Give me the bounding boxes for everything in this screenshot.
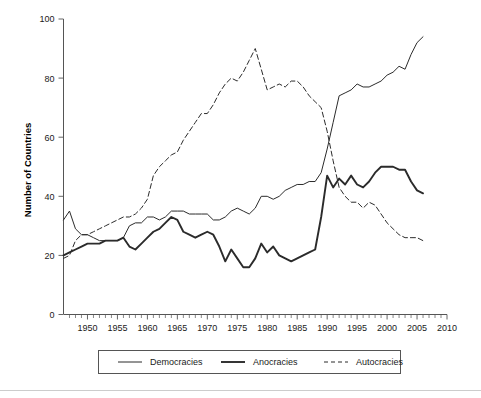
x-tick-label: 2000 [377, 323, 397, 333]
x-tick-label: 1975 [227, 323, 247, 333]
x-tick-label: 1980 [257, 323, 277, 333]
y-tick-label: 20 [44, 251, 54, 261]
y-axis-title: Number of Countries [22, 123, 33, 217]
x-tick-label: 1950 [77, 323, 97, 333]
y-tick-label: 40 [44, 192, 54, 202]
y-tick-label: 100 [39, 14, 54, 24]
x-tick-label: 1970 [197, 323, 217, 333]
x-tick-label: 2005 [407, 323, 427, 333]
legend-label-anocracies: Anocracies [253, 357, 298, 367]
chart-legend: DemocraciesAnocraciesAutocracies [99, 351, 404, 374]
x-tick-label: 1990 [317, 323, 337, 333]
x-tick-label: 1955 [107, 323, 127, 333]
x-tick-label: 1985 [287, 323, 307, 333]
legend-label-democracies: Democracies [150, 357, 203, 367]
x-tick-label: 1965 [167, 323, 187, 333]
x-tick-label: 1995 [347, 323, 367, 333]
legend-items: DemocraciesAnocraciesAutocracies [118, 357, 404, 367]
y-tick-label: 0 [49, 310, 54, 320]
y-tick-label: 80 [44, 74, 54, 84]
y-tick-label: 60 [44, 133, 54, 143]
x-tick-label: 2010 [437, 323, 457, 333]
x-tick-label: 1960 [137, 323, 157, 333]
legend-label-autocracies: Autocracies [356, 357, 404, 367]
chart-figure: Number of Countries 020406080100 1950195… [0, 0, 481, 398]
